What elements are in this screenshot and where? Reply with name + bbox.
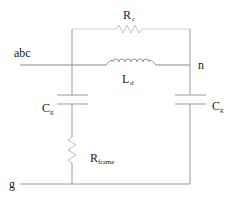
label-n: n — [198, 58, 204, 72]
resistor-rc — [72, 25, 190, 33]
label-g: g — [9, 177, 15, 191]
label-cg-left: C — [42, 101, 50, 115]
label-rc: R — [123, 8, 131, 22]
inductor-ld — [106, 59, 156, 65]
label-ld: L — [122, 72, 129, 86]
label-cg-right-sub: g — [220, 106, 224, 114]
capacitor-cg-left — [57, 95, 88, 104]
label-abc: abc — [14, 46, 31, 60]
circuit-diagram: R c abc n L d C g C g R frame g — [0, 0, 238, 198]
label-ld-sub: d — [130, 79, 134, 87]
label-rc-sub: c — [132, 15, 135, 23]
capacitor-cg-right — [175, 95, 206, 104]
label-rframe-sub: frame — [98, 158, 114, 166]
label-cg-left-sub: g — [50, 108, 54, 116]
resistor-rframe — [68, 137, 76, 163]
label-cg-right: C — [212, 99, 220, 113]
label-rframe: R — [90, 151, 98, 165]
